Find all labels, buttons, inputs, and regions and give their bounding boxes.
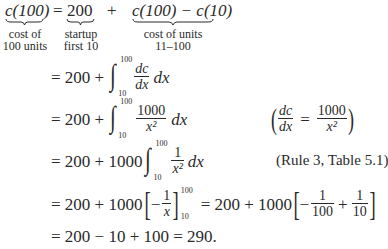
differential: dx <box>171 111 187 128</box>
equals-sign: = <box>300 111 310 128</box>
line-prefix: = 200 + <box>51 69 104 86</box>
left-bracket-icon: [ <box>145 187 151 221</box>
evaluation-limits: 100 10 <box>181 187 193 221</box>
minus-sign: − <box>151 196 161 213</box>
underbrace-icon <box>5 19 44 25</box>
numerator: 1 <box>311 189 334 204</box>
equation-line-3: = 200 + ∫ 100 10 1000 x² dx <box>51 102 187 136</box>
label-line: 100 units <box>0 40 50 52</box>
final-result-line: = 200 − 10 + 100 = 290. <box>51 228 217 245</box>
equation-line-4: = 200 + 1000 ∫ 100 10 1 x² dx <box>51 144 204 178</box>
denominator: x² <box>136 119 166 134</box>
equation-line-5: = 200 + 1000 [ − 1 x ] 100 10 = 200 + 10… <box>51 186 375 222</box>
label-cost-units-11-100: cost of units 11–100 <box>133 28 213 52</box>
label-startup: startup first 10 <box>58 28 104 52</box>
left-paren-icon: ( <box>271 104 277 134</box>
equation-line-2: = 200 + ∫ 100 10 dc dx dx <box>51 60 169 94</box>
lower-limit: 10 <box>181 213 193 221</box>
right-paren-icon: ) <box>348 104 354 134</box>
integral-lower-limit: 10 <box>153 174 161 182</box>
numerator: 1000 <box>317 104 347 119</box>
equals-sign: = <box>53 2 63 19</box>
numerator: dc <box>134 62 149 77</box>
line-prefix: = 200 + 1000 <box>51 153 142 170</box>
derivative-note: ( dc dx = 1000 x² ) <box>272 102 353 136</box>
underbrace-icon <box>66 19 95 25</box>
denominator: dx <box>278 119 293 134</box>
startup-cost-value: 200 <box>67 2 93 19</box>
underbrace-icon <box>132 19 214 25</box>
right-bracket-icon: ] <box>369 187 375 221</box>
cost-100-expression: c(100) <box>5 2 49 19</box>
differential: dx <box>188 153 204 170</box>
fraction-1-x: 1 x <box>162 189 171 219</box>
plus-sign: + <box>338 196 348 213</box>
fraction-dc-dx: dc dx <box>134 62 149 92</box>
label-line: first 10 <box>58 40 104 52</box>
fraction-1000-x2: 1000 x² <box>317 104 347 134</box>
integral-upper-limit: 100 <box>120 56 132 64</box>
cost-difference-expression: c(100) − c(10) <box>132 2 232 19</box>
fraction-dc-dx: dc dx <box>278 104 293 134</box>
right-bracket-icon: ] <box>173 187 179 221</box>
numerator: 1 <box>352 189 368 204</box>
line-middle: = 200 + 1000 <box>201 196 292 213</box>
label-cost-100-units: cost of 100 units <box>0 28 50 52</box>
fraction-1-x2: 1 x² <box>171 146 183 176</box>
denominator: x² <box>317 119 347 134</box>
numerator: 1 <box>162 189 171 204</box>
denominator: 10 <box>352 204 368 219</box>
rule-reference-note: (Rule 3, Table 5.1) <box>276 153 388 168</box>
fraction-1000-x2: 1000 x² <box>136 104 166 134</box>
denominator: 100 <box>311 204 334 219</box>
denominator: x² <box>171 161 183 176</box>
numerator: dc <box>278 104 293 119</box>
denominator: dx <box>134 77 149 92</box>
integral-sign-icon: ∫ 100 10 <box>145 144 161 178</box>
denominator: x <box>162 204 171 219</box>
fraction-1-10: 1 10 <box>352 189 368 219</box>
numerator: 1 <box>171 146 183 161</box>
integral-upper-limit: 100 <box>155 140 167 148</box>
upper-limit: 100 <box>181 187 193 195</box>
integral-sign-icon: ∫ 100 10 <box>110 102 126 136</box>
plus-sign: + <box>107 2 117 19</box>
line-prefix: = 200 + <box>51 111 104 128</box>
fraction-1-100: 1 100 <box>311 189 334 219</box>
line-prefix: = 200 + 1000 <box>51 196 142 213</box>
numerator: 1000 <box>136 104 166 119</box>
integral-upper-limit: 100 <box>120 98 132 106</box>
integral-lower-limit: 10 <box>118 132 126 140</box>
minus-sign: − <box>299 196 309 213</box>
differential: dx <box>153 69 169 86</box>
label-line: 11–100 <box>133 40 213 52</box>
integral-sign-icon: ∫ 100 10 <box>110 60 126 94</box>
left-bracket-icon: [ <box>294 187 300 221</box>
